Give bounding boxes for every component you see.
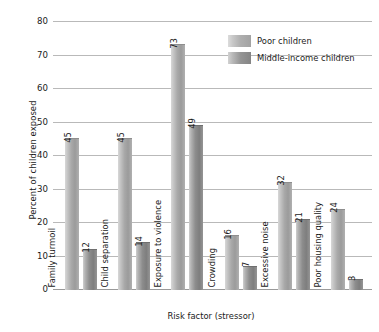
bar-value-label: 73 [170,38,178,49]
y-axis-tick-label: 40 [37,150,48,160]
bar-value-label: 45 [117,132,125,143]
y-axis-tick-label: 60 [37,83,48,93]
bar: 24 [331,209,345,290]
bar: 21 [296,219,310,290]
bar: 3 [349,279,363,290]
bar-value-label: 12 [82,242,90,253]
y-axis-title: Percent of children exposed [28,40,38,280]
bar-value-label: 49 [188,119,196,130]
category-label: Exposure to violence [154,200,162,287]
legend-swatch [228,35,251,47]
bar-value-label: 32 [276,175,284,186]
bar: 7 [243,266,257,290]
gridline-30: 30 [53,189,372,190]
bar: 45 [118,138,132,290]
bar-value-label: 45 [64,132,72,143]
x-axis-title: Risk factor (stressor) [48,311,374,321]
gridline-40: 40 [53,155,372,156]
bar: 45 [65,138,79,290]
bar-value-label: 21 [294,212,302,223]
bar: 12 [83,249,97,290]
legend-item: Middle-income children [228,49,374,66]
y-axis-tick-label: 80 [37,16,48,26]
bar-value-label: 3 [347,275,355,280]
bar: 73 [171,44,185,290]
category-label: Crowding [207,248,215,287]
category-label: Excessive noise [260,221,268,287]
gridline-80: 80 [53,21,372,22]
bar: 16 [225,235,239,290]
legend-item: Poor children [228,32,374,49]
bar-chart: Percent of children exposed 010203040506… [0,0,379,332]
chart-legend: Poor childrenMiddle-income children [228,32,374,66]
y-axis-tick-label: 70 [37,50,48,60]
bar-value-label: 24 [329,202,337,213]
legend-label: Middle-income children [257,53,355,63]
y-axis-tick-label: 50 [37,117,48,127]
category-label: Family turmoil [48,228,56,287]
bar-value-label: 16 [223,229,231,240]
gridline-0: 0 [53,289,372,290]
legend-swatch [228,52,251,64]
category-label: Poor housing quality [313,202,321,287]
gridline-60: 60 [53,88,372,89]
y-axis-tick-label: 20 [37,217,48,227]
bar-value-label: 14 [135,236,143,247]
bar: 32 [278,182,292,290]
bar: 49 [189,125,203,290]
category-label: Child separation [101,219,109,287]
bar: 14 [136,242,150,290]
gridline-50: 50 [53,122,372,123]
bar-value-label: 7 [241,262,249,267]
legend-label: Poor children [257,36,312,46]
y-axis-tick-label: 30 [37,184,48,194]
